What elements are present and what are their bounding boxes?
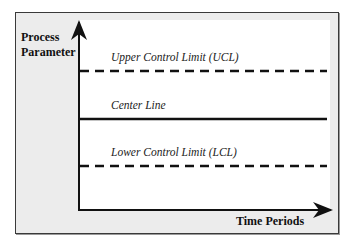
center-line-label: Center Line: [111, 99, 166, 111]
lcl-label: Lower Control Limit (LCL): [111, 146, 237, 158]
x-axis-label: Time Periods: [236, 214, 304, 229]
ucl-label: Upper Control Limit (UCL): [111, 51, 239, 63]
control-chart-graphic: [0, 0, 347, 247]
